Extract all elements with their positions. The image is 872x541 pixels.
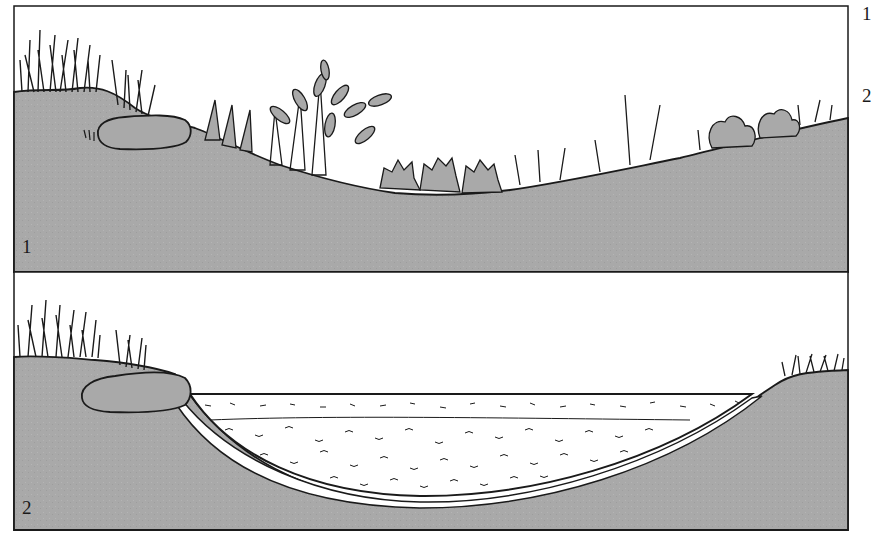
rock-1 xyxy=(98,115,191,149)
panel-1 xyxy=(14,6,848,272)
side-label-2: 2 xyxy=(862,85,872,107)
panel-1-label: 1 xyxy=(22,236,32,258)
panel-2 xyxy=(14,272,848,530)
side-label-1: 1 xyxy=(862,3,872,25)
panel-2-label: 2 xyxy=(22,497,32,519)
